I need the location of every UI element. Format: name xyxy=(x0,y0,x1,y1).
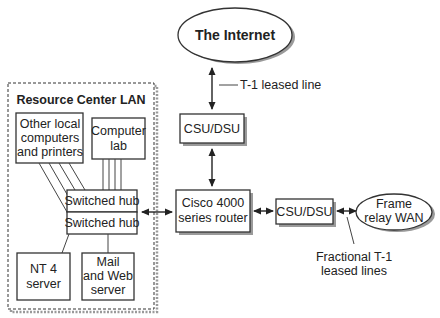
csu-dsu-top: CSU/DSU xyxy=(180,114,247,146)
fractional-t1-label-line2: leased lines xyxy=(321,264,387,278)
switched-hub-1-label: Switched hub xyxy=(64,194,139,208)
csu-dsu-top-label: CSU/DSU xyxy=(184,122,240,136)
lan-title: Resource Center LAN xyxy=(16,93,145,107)
nt4-line1: NT 4 xyxy=(30,262,57,276)
router-label-line1: Cisco 4000 xyxy=(182,196,245,210)
resource-center-lan: Resource Center LAN Other local computer… xyxy=(8,83,157,312)
other-local-line3: and printers xyxy=(17,145,83,159)
fractional-t1-label-line1: Fractional T-1 xyxy=(316,250,392,264)
frame-relay-label-line2: relay WAN xyxy=(364,211,423,225)
other-local-line1: Other local xyxy=(20,117,80,131)
t1-leased-line-label: T-1 leased line xyxy=(240,78,321,92)
fractional-t1-leader-line xyxy=(347,217,354,244)
mail-web-line2: and Web xyxy=(83,269,133,283)
network-diagram: The Internet T-1 leased line CSU/DSU Cis… xyxy=(0,0,440,318)
mail-web-line1: Mail xyxy=(97,255,120,269)
cisco-router: Cisco 4000 series router xyxy=(176,190,253,235)
switched-hub-2-label: Switched hub xyxy=(64,216,139,230)
mail-web-line3: server xyxy=(91,283,126,297)
frame-relay-node: Frame relay WAN xyxy=(356,194,435,232)
internet-label: The Internet xyxy=(195,27,275,43)
frame-relay-label-line1: Frame xyxy=(376,197,412,211)
computer-lab-line1: Computer xyxy=(91,124,146,138)
nt4-line2: server xyxy=(26,277,61,291)
other-local-line2: computers xyxy=(21,131,79,145)
router-label-line2: series router xyxy=(178,211,247,225)
internet-node: The Internet xyxy=(178,8,295,64)
csu-dsu-right: CSU/DSU xyxy=(276,199,336,227)
computer-lab-line2: lab xyxy=(110,139,127,153)
csu-dsu-right-label: CSU/DSU xyxy=(276,205,332,219)
